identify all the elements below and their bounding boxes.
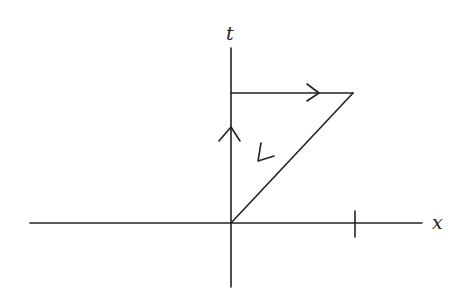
down-left-arrow-icon [258, 143, 274, 161]
t-axis-label: t [226, 22, 234, 44]
x-axis-label: x [432, 211, 443, 233]
spacetime-diagram: t x [0, 0, 465, 299]
path-diagonal-segment [231, 93, 353, 223]
up-arrow-icon [219, 127, 240, 141]
